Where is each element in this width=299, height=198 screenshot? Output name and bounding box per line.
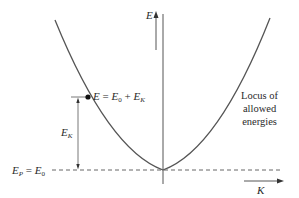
ek-label-sub: K bbox=[68, 132, 73, 140]
point-label-eq: = bbox=[100, 90, 112, 102]
locus-line-1: Locus of bbox=[241, 89, 278, 102]
point-label-plus: + bbox=[122, 90, 134, 102]
baseline-label-e0-sub: 0 bbox=[41, 170, 45, 178]
point-label-ek-sub: K bbox=[140, 96, 145, 104]
energy-parabola-diagram: E E = E0 + EK EK EP = E0 Locus of allowe… bbox=[0, 0, 299, 198]
baseline-label-ep: E bbox=[12, 164, 19, 176]
point-label-lhs: E bbox=[93, 90, 100, 102]
vertical-axis-label: E bbox=[146, 10, 153, 21]
energy-point bbox=[85, 94, 90, 99]
baseline-label-eq: = bbox=[23, 164, 35, 176]
ek-arrowhead-down-icon bbox=[76, 164, 79, 170]
e-arrowhead-icon bbox=[154, 11, 159, 18]
ek-arrowhead-up-icon bbox=[76, 98, 79, 104]
horizontal-axis-label: K bbox=[257, 185, 264, 196]
locus-label: Locus of allowed energies bbox=[241, 89, 278, 128]
point-energy-label: E = E0 + EK bbox=[93, 91, 145, 104]
baseline-label: EP = E0 bbox=[12, 165, 45, 178]
locus-line-3: energies bbox=[241, 115, 278, 128]
ek-label: EK bbox=[61, 127, 72, 140]
locus-line-2: allowed bbox=[241, 102, 278, 115]
ek-label-base: E bbox=[61, 126, 68, 138]
k-arrowhead-icon bbox=[277, 179, 284, 184]
